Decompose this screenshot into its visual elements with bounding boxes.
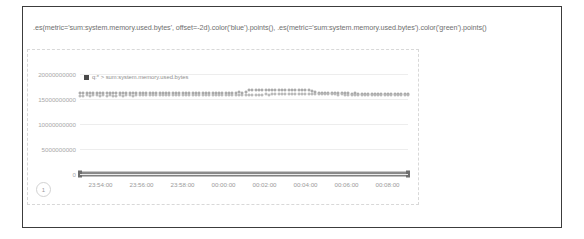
timelion-expression-text: .es(metric='sum:system.memory.used.bytes…	[33, 23, 551, 32]
y-gridline	[80, 124, 408, 125]
y-gridline	[80, 74, 408, 75]
x-axis-tick-label: 00:04:00	[293, 181, 317, 188]
x-axis-tick-label: 23:54:00	[88, 181, 112, 188]
x-axis-tick-label: 23:58:00	[170, 181, 194, 188]
y-gridline	[80, 99, 408, 100]
data-point	[407, 93, 410, 96]
x-axis-tick-label: 00:00:00	[211, 181, 235, 188]
y-axis-tick-label: 15000000000	[28, 95, 76, 102]
timelion-chart-panel: .es(metric='sum:system.memory.used.bytes…	[22, 6, 562, 228]
x-axis-tick-label: 00:06:00	[334, 181, 358, 188]
x-axis-tick-label: 23:56:00	[129, 181, 153, 188]
data-points-layer: 23:54:0023:56:0023:58:0000:00:0000:02:00…	[80, 66, 408, 174]
y-axis-tick-label: 10000000000	[28, 120, 76, 127]
x-axis-tick-label: 00:08:00	[375, 181, 399, 188]
y-axis-tick-label: 0	[28, 171, 76, 178]
series-count-badge[interactable]: 1	[36, 182, 51, 197]
y-gridline	[80, 174, 408, 175]
chart-plot-area: q:* > sum:system.memory.used.bytes 23:54…	[27, 49, 419, 205]
x-axis-tick-label: 00:02:00	[252, 181, 276, 188]
y-axis-tick-label: 5000000000	[28, 145, 76, 152]
y-axis-tick-label: 20000000000	[28, 70, 76, 77]
y-gridline	[80, 149, 408, 150]
